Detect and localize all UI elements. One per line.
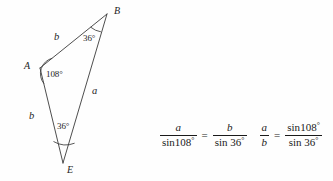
fraction-a-over-sin108: a sin108° <box>160 122 197 149</box>
equation-law-of-sines: a sin108° = b sin 36° <box>160 122 247 149</box>
equation-ratio-a-over-b: a b = sin108° sin 36° <box>260 122 322 149</box>
figure-page: B A E b b a 36° 108° 36° a sin108° = b s… <box>0 0 333 181</box>
degree-symbol: ° <box>241 136 244 145</box>
angle-value-36: 36 <box>230 136 241 148</box>
angle-label-e: 36° <box>57 122 69 131</box>
angle-value-36: 36 <box>304 136 315 148</box>
angle-value-108: 108 <box>175 136 192 148</box>
degree-symbol: ° <box>317 121 320 130</box>
fraction-sin108-over-sin36: sin108° sin 36° <box>285 122 322 149</box>
equals-sign: = <box>273 129 281 141</box>
denominator-sin36: sin 36° <box>213 136 247 149</box>
vertex-label-e: E <box>67 165 73 175</box>
sin-function-text: sin <box>289 136 305 148</box>
vertex-label-b: B <box>114 6 120 16</box>
numerator-a: a <box>260 122 270 135</box>
angle-value-108: 108 <box>300 121 317 133</box>
sin-function-text: sin <box>215 136 231 148</box>
equation-group: a sin108° = b sin 36° a b = sin108° sin … <box>160 122 322 149</box>
denominator-sin36: sin 36° <box>287 136 321 149</box>
angle-label-b: 36° <box>83 34 95 43</box>
sin-function-text: sin <box>287 121 300 133</box>
equals-sign: = <box>201 129 209 141</box>
side-label-be: a <box>92 86 97 97</box>
side-label-ae: b <box>29 111 34 122</box>
vertex-label-a: A <box>24 61 30 71</box>
numerator-b: b <box>225 122 235 135</box>
angle-arc-b <box>91 27 101 32</box>
degree-symbol: ° <box>191 136 194 145</box>
fraction-a-over-b: a b <box>260 122 270 149</box>
segment-ae <box>40 68 63 163</box>
side-label-ab: b <box>54 32 59 43</box>
segment-ab <box>40 14 107 68</box>
fraction-b-over-sin36: b sin 36° <box>213 122 247 149</box>
degree-symbol: ° <box>315 136 318 145</box>
denominator-sin108: sin108° <box>160 136 197 149</box>
triangle-figure <box>0 0 333 181</box>
angle-arc-e <box>54 142 75 145</box>
numerator-sin108: sin108° <box>285 122 322 135</box>
angle-label-a: 108° <box>46 70 63 79</box>
numerator-a: a <box>174 122 184 135</box>
sin-function-text: sin <box>162 136 175 148</box>
denominator-b: b <box>260 136 270 149</box>
